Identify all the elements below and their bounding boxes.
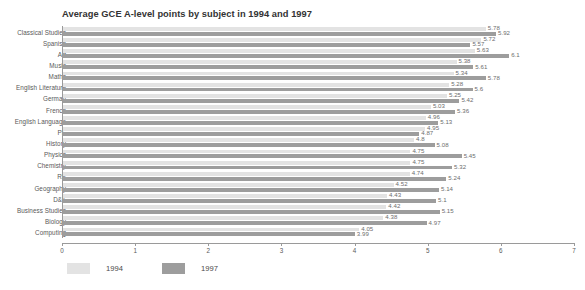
bar-1997 [63,210,440,214]
bar-value-label: 5.32 [454,163,466,170]
x-axis-tick [281,243,282,246]
x-axis-tick-label: 3 [280,247,284,254]
bar-1997 [63,132,419,136]
clipped-header-text [0,0,585,6]
bar-1997 [63,199,436,203]
bar-value-label: 5.08 [437,141,449,148]
x-axis-tick [501,243,502,246]
bar-1994 [63,216,383,220]
bar-value-label: 5.34 [456,69,468,76]
bar-1994 [63,183,394,187]
bar-group: 4.384.97 [63,215,585,226]
legend-label: 1997 [201,264,218,273]
legend-item-1994[interactable]: 1994 [67,263,123,274]
bar-value-label: 5.78 [488,74,500,81]
bar-group: 4.053.99 [63,227,585,238]
bar-value-label: 3.99 [357,230,369,237]
bar-value-label: 5.15 [442,207,454,214]
bar-1994 [63,116,426,120]
x-axis-tick-label: 2 [207,247,211,254]
bar-value-label: 5.38 [459,57,471,64]
bar-group: 4.755.32 [63,160,585,171]
bar-1994 [63,94,447,98]
bar-value-label: 4.97 [429,219,441,226]
bar-1994 [63,205,386,209]
x-axis-tick [135,243,136,246]
bar-value-label: 4.96 [428,113,440,120]
chart-row: Geography4.525.14 [0,182,585,193]
category-label: Business Studies [17,206,66,213]
chart-row: PE4.954.87 [0,126,585,137]
bar-1994 [63,83,449,87]
bar-1994 [63,72,454,76]
bar-group: 4.745.24 [63,171,585,182]
chart-row: Biology4.384.97 [0,215,585,226]
x-axis-ticks: 01234567 [62,243,574,259]
bar-1997 [63,232,355,236]
bar-value-label: 4.38 [385,213,397,220]
bar-group: 4.435.1 [63,193,585,204]
bar-value-label: 4.74 [412,169,424,176]
legend-label: 1994 [106,264,123,273]
chart-row: Chemistry4.755.32 [0,160,585,171]
category-label: English Language [15,117,66,124]
bar-1994 [63,150,410,154]
bar-value-label: 4.42 [388,202,400,209]
x-axis-tick [208,243,209,246]
category-label: Classical Studies [17,28,66,35]
bar-group: 4.525.14 [63,182,585,193]
x-axis-tick-label: 7 [572,247,576,254]
bar-value-label: 5.36 [457,107,469,114]
bar-1994 [63,161,410,165]
chart-row: RE4.745.24 [0,171,585,182]
bar-group: 5.636.1 [63,48,585,59]
bar-1994 [63,38,481,42]
bar-1997 [63,88,473,92]
bar-value-label: 5.61 [475,63,487,70]
bar-value-label: 5.24 [448,174,460,181]
chart-row: D&T4.435.1 [0,193,585,204]
bar-value-label: 5.6 [475,85,484,92]
bar-value-label: 5.13 [440,118,452,125]
bar-group: 4.755.45 [63,149,585,160]
bar-value-label: 5.28 [451,80,463,87]
chart-title: Average GCE A-level points by subject in… [62,9,312,19]
x-axis-tick-label: 0 [60,247,64,254]
bar-1994 [63,105,431,109]
bar-group: 5.385.61 [63,59,585,70]
bar-1994 [63,138,414,142]
bar-1997 [63,110,455,114]
bar-group: 5.345.78 [63,71,585,82]
chart-row: Spanish5.725.57 [0,37,585,48]
category-label: English Literature [16,84,66,91]
bar-group: 4.965.13 [63,115,585,126]
bar-1997 [63,32,496,36]
legend-item-1997[interactable]: 1997 [162,263,218,274]
bar-value-label: 5.63 [477,46,489,53]
legend-swatch-1994 [67,263,90,274]
bar-value-label: 5.42 [461,96,473,103]
bar-value-label: 4.75 [412,158,424,165]
bar-value-label: 5.14 [441,185,453,192]
bar-1997 [63,65,473,69]
bar-1997 [63,43,470,47]
chart-row: Maths5.345.78 [0,71,585,82]
bar-1994 [63,228,359,232]
bar-group: 5.255.42 [63,93,585,104]
x-axis-tick [355,243,356,246]
bar-1997 [63,188,439,192]
bar-1994 [63,194,387,198]
bar-1997 [63,54,509,58]
plot-area: Classical Studies5.785.92Spanish5.725.57… [0,26,585,242]
bar-1994 [63,172,410,176]
bar-1994 [63,27,486,31]
bar-value-label: 5.1 [438,196,447,203]
bar-value-label: 4.43 [389,191,401,198]
x-axis-tick [428,243,429,246]
bar-1997 [63,177,446,181]
chart-row: Classical Studies5.785.92 [0,26,585,37]
chart-row: Computing4.053.99 [0,227,585,238]
bar-value-label: 4.8 [416,135,425,142]
x-axis-tick-label: 6 [499,247,503,254]
bar-1997 [63,99,459,103]
